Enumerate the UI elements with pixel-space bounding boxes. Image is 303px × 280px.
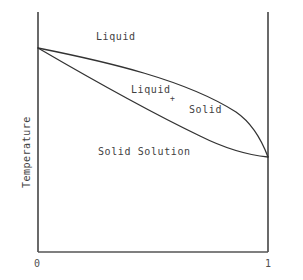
region-label-liquid-plus-solid-solid: Solid xyxy=(189,105,222,115)
phase-diagram-figure: Temperature Liquid Liquid + Solid Solid … xyxy=(0,0,303,280)
plot-canvas xyxy=(0,0,303,280)
y-axis-title: Temperature xyxy=(22,116,32,188)
region-label-liquid-plus-solid-liquid: Liquid xyxy=(131,85,171,95)
region-label-liquid: Liquid xyxy=(96,32,136,42)
region-label-solid-solution: Solid Solution xyxy=(98,147,191,157)
x-tick-label-1: 1 xyxy=(265,259,271,269)
x-tick-label-0: 0 xyxy=(34,259,40,269)
solidus-curve xyxy=(38,48,268,157)
region-label-liquid-plus-solid-plus: + xyxy=(170,95,175,103)
liquidus-curve xyxy=(38,48,268,157)
